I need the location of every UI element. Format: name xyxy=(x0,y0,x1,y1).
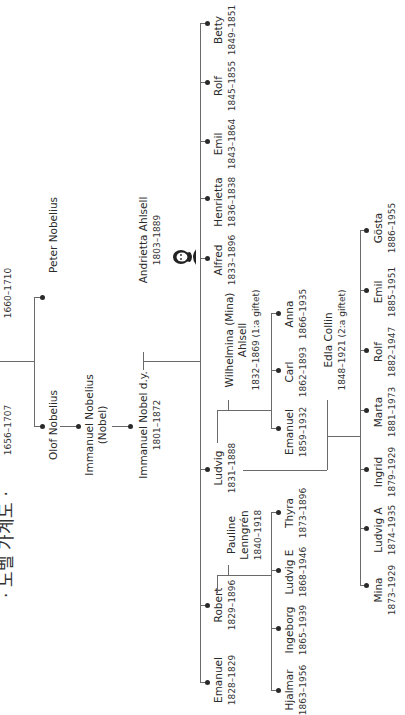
person-pauline-lenngren: Pauline Lenngrén 1840–1918 xyxy=(225,510,265,560)
marriage-connector xyxy=(217,575,271,576)
person-mina: Mina 1873–1929 xyxy=(372,565,398,615)
root-connector xyxy=(0,361,34,362)
person-hjalmar: Hjalmar 1863–1956 xyxy=(283,665,309,715)
person-ludvig-e: Ludvig E 1868–1946 xyxy=(283,547,309,597)
arrow-icon xyxy=(276,368,281,373)
person-immanuel-nobel: Immanuel Nobel d.y. 1801–1872 xyxy=(137,371,163,479)
trunk xyxy=(200,23,201,683)
ancestor-years-left: 1656–1707 xyxy=(1,405,14,455)
arrow-icon xyxy=(205,603,210,608)
arrow-icon xyxy=(364,583,369,588)
person-ludvig-a: Ludvig A 1874–1935 xyxy=(372,505,398,555)
arrow-icon xyxy=(205,680,210,685)
page-title: · 노벨 가계도 · xyxy=(0,491,17,598)
person-robert: Robert 1829–1896 xyxy=(212,580,238,630)
arrow-icon xyxy=(40,295,45,300)
person-ingrid: Ingrid 1879–1929 xyxy=(372,447,398,497)
person-peter-nobelius: Peter Nobelius xyxy=(47,197,60,273)
arrow-icon xyxy=(276,688,281,693)
person-rolf-ludvigs-son: Rolf 1882–1947 xyxy=(372,327,398,377)
arrow-icon xyxy=(364,408,369,413)
arrow-icon xyxy=(40,424,45,429)
person-marta: Marta 1881–1973 xyxy=(372,387,398,437)
person-emanuel-eldest: Emanuel 1828–1829 xyxy=(212,655,238,705)
person-betty: Betty 1849–1851 xyxy=(212,5,238,55)
arrow-icon xyxy=(128,424,133,429)
person-gosta: Gösta 1886–1955 xyxy=(372,203,398,253)
person-emil: Emil 1843–1864 xyxy=(212,119,238,169)
person-henrietta: Henrietta 1836–1838 xyxy=(212,177,238,227)
person-carl: Carl 1862–1893 xyxy=(283,347,309,397)
connector xyxy=(327,436,360,437)
marriage-connector xyxy=(217,410,271,411)
person-rolf: Rolf 1845–1855 xyxy=(212,61,238,111)
arrow-icon xyxy=(205,21,210,26)
person-andrietta-ahlsell: Andrietta Ahlsell 1803–1889 xyxy=(137,197,163,284)
person-olof-nobelius: Olof Nobelius xyxy=(47,390,60,460)
arrow-icon xyxy=(276,311,281,316)
arrow-icon xyxy=(276,510,281,515)
marriage-connector xyxy=(327,400,328,470)
arrow-icon xyxy=(205,196,210,201)
person-immanuel-nobelius: Immanuel Nobelius (Nobel) xyxy=(83,374,109,475)
person-ludvig: Ludvig 1831–1888 xyxy=(212,443,238,493)
alfred-nobel-portrait-icon xyxy=(172,244,196,270)
children-branch xyxy=(271,512,272,690)
marriage-connector xyxy=(243,470,327,471)
arrow-icon xyxy=(364,467,369,472)
arrow-icon xyxy=(276,568,281,573)
arrow-icon xyxy=(276,426,281,431)
arrow-icon xyxy=(276,626,281,631)
person-thyra: Thyra 1873–1896 xyxy=(283,488,309,538)
arrow-icon xyxy=(364,228,369,233)
root-branch xyxy=(34,297,35,426)
person-emanuel-ludvigs-son: Emanuel 1859–1932 xyxy=(283,407,309,457)
arrow-icon xyxy=(205,467,210,472)
person-ingeborg: Ingeborg 1865–1939 xyxy=(283,605,309,655)
arrow-icon xyxy=(76,424,81,429)
person-emil-ludvigs-son: Emil 1885–1951 xyxy=(372,267,398,317)
arrow-icon xyxy=(205,139,210,144)
arrow-icon xyxy=(205,80,210,85)
arrow-icon xyxy=(364,526,369,531)
arrow-icon xyxy=(205,256,210,261)
marriage-tick xyxy=(228,565,229,575)
arrow-icon xyxy=(364,288,369,293)
ancestor-years-right: 1660–1710 xyxy=(1,268,14,318)
arrow-icon xyxy=(364,348,369,353)
person-wilhelmina-ahlsell: Wilhelmina (Mina) Ahlsell 1832–1869 (1:a… xyxy=(223,289,263,390)
children-branch xyxy=(360,230,361,586)
person-edla-collin: Edla Collin 1848–1921 (2:a giftet) xyxy=(322,289,348,390)
marriage-connector xyxy=(217,410,218,443)
person-alfred: Alfred 1833–1896 xyxy=(212,235,238,285)
marriage-connector xyxy=(143,361,200,362)
marriage-connector xyxy=(217,575,218,593)
person-anna: Anna 1866–1935 xyxy=(283,289,309,339)
marriage-tick xyxy=(228,400,229,410)
